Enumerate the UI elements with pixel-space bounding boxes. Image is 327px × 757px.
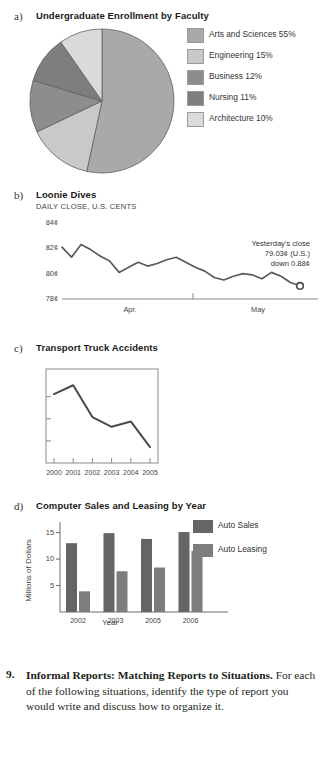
line-chart-c-xtick: 2005 xyxy=(137,469,163,476)
bar-chart-xtick: 2005 xyxy=(138,617,168,624)
figure-a-letter: a) xyxy=(14,10,23,22)
figure-c-letter: c) xyxy=(14,342,23,354)
figure-b-title: Loonie Dives xyxy=(36,189,96,200)
line-chart-c-graphic xyxy=(40,365,220,470)
exercise-number: 9. xyxy=(6,668,15,680)
figure-a-pie-chart: a) Undergraduate Enrollment by Faculty A… xyxy=(0,0,327,185)
line-chart-b-ytick: 84¢ xyxy=(30,218,58,227)
bar-chart-ylabel: Millions of Dollars xyxy=(24,531,33,611)
bar-chart-xlabel: Year xyxy=(80,618,140,627)
figure-d-title: Computer Sales and Leasing by Year xyxy=(36,500,206,511)
bar-legend-swatch xyxy=(193,520,213,533)
bar-chart-ytick: 15 xyxy=(32,528,54,537)
pie-legend-swatch xyxy=(187,28,204,43)
bar-chart-ytick: 5 xyxy=(32,581,54,590)
pie-legend-label: Engineering 15% xyxy=(209,50,273,60)
line-chart-b-xtick: May xyxy=(244,305,272,314)
figure-d-letter: d) xyxy=(14,500,23,512)
pie-legend-swatch xyxy=(187,70,204,85)
line-chart-b-xtick: Apr. xyxy=(116,305,144,314)
bar-legend-swatch xyxy=(193,544,213,557)
figure-b-line-chart: b) Loonie Dives DAILY CLOSE, U.S. CENTS … xyxy=(0,185,327,335)
figure-c-title: Transport Truck Accidents xyxy=(36,342,158,353)
figure-a-title: Undergraduate Enrollment by Faculty xyxy=(36,10,209,21)
pie-legend-label: Arts and Sciences 55% xyxy=(209,29,296,39)
exercise-lead: Informal Reports: Matching Reports to Si… xyxy=(26,669,273,681)
exercise-text: Informal Reports: Matching Reports to Si… xyxy=(26,668,318,715)
pie-legend-label: Business 12% xyxy=(209,71,262,81)
bar-chart-ytick: 10 xyxy=(32,554,54,563)
pie-legend-swatch xyxy=(187,112,204,127)
line-chart-b-ytick: 82¢ xyxy=(30,243,58,252)
figure-d-bar-chart: d) Computer Sales and Leasing by Year 51… xyxy=(0,490,327,660)
bar-legend-label: Auto Leasing xyxy=(218,544,267,554)
figure-c-line-chart: c) Transport Truck Accidents 20002001200… xyxy=(0,335,327,490)
pie-legend-swatch xyxy=(187,91,204,106)
bar-chart-xtick: 2006 xyxy=(176,617,206,624)
pie-chart-graphic xyxy=(26,26,186,176)
bar-legend-label: Auto Sales xyxy=(218,520,259,530)
pie-legend-label: Nursing 11% xyxy=(209,92,256,102)
figure-b-letter: b) xyxy=(14,189,23,201)
line-chart-b-ytick: 80¢ xyxy=(30,269,58,278)
line-chart-b-ytick: 78¢ xyxy=(30,294,58,303)
pie-legend-swatch xyxy=(187,49,204,64)
pie-legend-label: Architecture 10% xyxy=(209,113,273,123)
